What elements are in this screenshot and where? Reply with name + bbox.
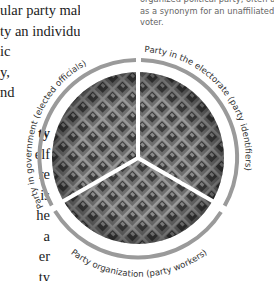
label-party-organization: Party organization (party workers) [69, 247, 208, 279]
party-tripod-figure: Party in government (elected officials) … [0, 0, 274, 281]
pie-diagram: Party in government (elected officials) … [0, 0, 274, 281]
